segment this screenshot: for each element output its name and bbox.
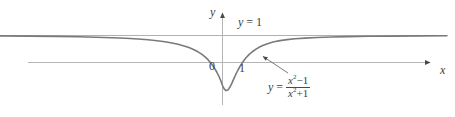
origin-label: 0 [209,60,215,72]
asymptote-label-value: = 1 [243,15,262,29]
function-curve [0,36,447,91]
equation-equals-sign: = [276,81,283,93]
equation-denominator: x2+1 [286,88,310,100]
function-graph-figure: y x 0 1 y = 1 y = x2−1 x2+1 [0,0,455,117]
equation-lhs: y [268,81,273,93]
x-tick-label-1: 1 [239,62,245,74]
plot-canvas [0,0,455,117]
y-axis-label: y [210,6,215,18]
x-axis-label: x [440,64,445,76]
numerator-constant: 1 [303,74,309,86]
equation-fraction: x2−1 x2+1 [286,75,310,99]
denominator-constant: 1 [303,87,309,99]
equation-callout: y = x2−1 x2+1 [268,75,310,99]
asymptote-label: y = 1 [238,16,262,28]
equation-leader-line [263,57,288,74]
